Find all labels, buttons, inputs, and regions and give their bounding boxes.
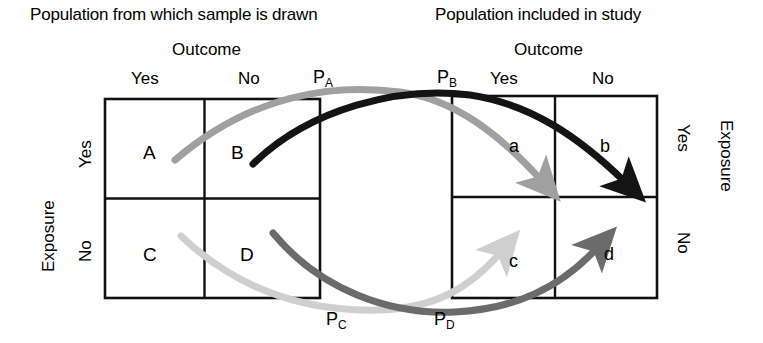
left-outcome-label: Outcome (172, 41, 241, 58)
p-d-subscript: D (446, 318, 455, 332)
right-exposure-axis-label: Exposure (718, 120, 735, 192)
right-cell-d: d (604, 245, 614, 263)
left-panel-title: Population from which sample is drawn (30, 6, 317, 23)
left-col-header-yes: Yes (131, 70, 159, 87)
left-cell-c: C (143, 245, 157, 264)
p-c-label: PC (326, 310, 347, 328)
left-col-header-no: No (238, 70, 260, 87)
p-d-label: PD (434, 310, 455, 328)
right-cell-b: b (600, 137, 610, 155)
p-c-subscript: C (338, 318, 347, 332)
arrow-b-path (253, 93, 625, 182)
right-col-header-no: No (592, 70, 614, 87)
left-cell-b: B (231, 143, 244, 162)
left-cell-a: A (143, 143, 156, 162)
left-row-label-yes: Yes (77, 140, 94, 168)
diagram-canvas: Population from which sample is drawn Po… (0, 0, 763, 343)
p-a-label: PA (313, 68, 333, 86)
p-d-letter: P (434, 309, 446, 329)
right-panel-title: Population included in study (435, 6, 641, 23)
right-col-header-yes: Yes (490, 70, 518, 87)
left-cell-d: D (240, 245, 254, 264)
p-b-label: PB (437, 68, 457, 86)
p-b-letter: P (437, 67, 449, 87)
diagram-artwork (0, 0, 763, 343)
right-outcome-label: Outcome (514, 41, 583, 58)
right-cell-a: a (509, 137, 519, 155)
right-row-label-no: No (675, 232, 692, 254)
p-a-letter: P (313, 67, 325, 87)
left-exposure-axis-label: Exposure (40, 200, 57, 272)
p-b-subscript: B (449, 76, 457, 90)
p-c-letter: P (326, 309, 338, 329)
p-a-subscript: A (325, 76, 333, 90)
right-row-label-yes: Yes (675, 124, 692, 152)
right-cell-c: c (509, 252, 518, 270)
left-row-label-no: No (77, 240, 94, 262)
